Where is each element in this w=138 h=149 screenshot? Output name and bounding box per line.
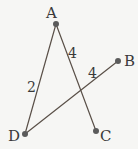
length-label-ad: 2 <box>27 79 36 95</box>
label-a: A <box>45 4 57 22</box>
segment-db <box>25 61 118 134</box>
point-c <box>93 128 99 134</box>
geometry-diagram: A B C D 2 4 4 <box>0 0 138 149</box>
point-d <box>22 131 28 137</box>
label-c: C <box>100 127 111 145</box>
length-label-db: 4 <box>88 65 97 81</box>
label-b: B <box>124 52 135 70</box>
length-label-ac: 4 <box>68 45 77 61</box>
label-d: D <box>8 127 20 145</box>
point-b <box>115 58 121 64</box>
